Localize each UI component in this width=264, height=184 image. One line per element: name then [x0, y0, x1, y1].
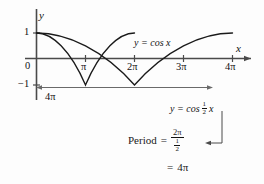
curve-label-cos-half-x: y = cos 1 2 x — [170, 101, 213, 116]
period-word: Period — [128, 134, 157, 146]
x-tick-label-3pi: 3π — [176, 62, 187, 73]
curve-label-half-denominator: 2 — [202, 108, 208, 116]
period-result-equals: = — [167, 161, 173, 173]
period-numerator: 2π — [171, 128, 184, 137]
y-tick-label-1: 1 — [24, 27, 29, 38]
x-tick-label-2pi: 2π — [127, 62, 138, 73]
span-arrow-label: 4π — [45, 92, 56, 103]
period-main-row: Period = 2π 1 2 — [128, 128, 188, 153]
y-tick-label-neg1: −1 — [18, 79, 29, 90]
cosine-period-figure: y x 1 −1 0 π 2π 3π 4π 4π y = cos x y = c… — [0, 0, 264, 184]
x-axis-arrowhead — [244, 56, 251, 61]
curve-label-cos-half-x-var: x — [209, 104, 213, 114]
origin-label: 0 — [25, 61, 30, 72]
period-fraction: 2π 1 2 — [171, 128, 184, 153]
span-arrow-right-head — [207, 85, 213, 89]
period-calculation: Period = 2π 1 2 = 4π — [128, 128, 188, 173]
x-tick-label-4pi: 4π — [225, 62, 236, 73]
callout-arrowhead — [205, 141, 211, 145]
curve-label-cos-half-x-prefix: y = cos — [170, 104, 200, 114]
period-result: 4π — [177, 161, 188, 173]
x-tick-label-pi: π — [81, 62, 86, 73]
period-denominator-numerator: 1 — [174, 138, 180, 145]
curve-label-half-numerator: 1 — [202, 101, 208, 108]
period-equals: = — [161, 134, 167, 146]
x-axis-label: x — [236, 43, 241, 54]
period-denominator-denominator: 2 — [174, 145, 180, 153]
y-axis-label: y — [39, 10, 44, 21]
period-denominator-fraction: 1 2 — [174, 138, 180, 153]
curve-label-half-fraction: 1 2 — [202, 101, 208, 116]
curve-label-cos-x: y = cos x — [134, 38, 170, 48]
period-denominator: 1 2 — [171, 137, 184, 153]
period-result-row: = 4π — [167, 161, 188, 173]
